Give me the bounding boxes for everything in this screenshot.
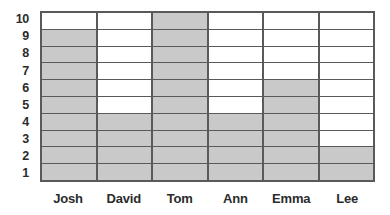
bar-segment-empty xyxy=(320,80,374,97)
bar-segment-filled xyxy=(264,97,318,114)
bar-segment-empty xyxy=(98,47,152,64)
bar-segment-empty xyxy=(209,63,263,80)
bar-segment-filled xyxy=(42,30,96,47)
bar-segment-filled xyxy=(42,80,96,97)
bar-segment-filled xyxy=(209,131,263,148)
bar-segment-filled xyxy=(320,147,374,164)
x-axis-tick: Tom xyxy=(152,186,208,210)
bar-segment-filled xyxy=(264,147,318,164)
bar-segment-filled xyxy=(153,97,207,114)
bar-segment-filled xyxy=(209,114,263,131)
y-axis-tick: 4 xyxy=(0,114,34,131)
y-axis-tick: 1 xyxy=(0,165,34,182)
bar-segment-filled xyxy=(42,164,96,180)
x-axis-tick: Lee xyxy=(319,186,375,210)
x-axis-tick-labels: Josh David Tom Ann Emma Lee xyxy=(40,186,375,210)
y-axis-tick: 8 xyxy=(0,45,34,62)
y-axis-tick: 5 xyxy=(0,96,34,113)
bar-segment-empty xyxy=(264,13,318,30)
bar-segment-empty xyxy=(42,13,96,30)
bar-segment-filled xyxy=(209,164,263,180)
bar-segment-filled xyxy=(264,114,318,131)
bar-segment-filled xyxy=(42,147,96,164)
bar-segment-filled xyxy=(42,63,96,80)
bar-column xyxy=(153,13,209,180)
bar-segment-empty xyxy=(320,47,374,64)
y-axis-tick: 9 xyxy=(0,28,34,45)
x-axis-tick: Emma xyxy=(263,186,319,210)
x-axis-tick: Josh xyxy=(40,186,96,210)
bar-segment-filled xyxy=(42,131,96,148)
bar-segment-empty xyxy=(320,63,374,80)
x-axis-tick: Ann xyxy=(207,186,263,210)
bar-segment-empty xyxy=(320,131,374,148)
bar-column xyxy=(98,13,154,180)
bar-segment-filled xyxy=(264,131,318,148)
bar-segment-empty xyxy=(209,47,263,64)
bar-segment-filled xyxy=(42,114,96,131)
y-axis-tick: 7 xyxy=(0,62,34,79)
x-axis-tick: David xyxy=(96,186,152,210)
bar-segment-filled xyxy=(264,80,318,97)
bar-column xyxy=(42,13,98,180)
bar-segment-empty xyxy=(264,63,318,80)
bar-segment-filled xyxy=(42,47,96,64)
bar-segment-filled xyxy=(320,164,374,180)
bar-segment-empty xyxy=(320,114,374,131)
bar-segment-empty xyxy=(264,47,318,64)
bar-segment-filled xyxy=(153,147,207,164)
bar-segment-filled xyxy=(153,80,207,97)
bar-segment-filled xyxy=(209,147,263,164)
bar-segment-empty xyxy=(209,97,263,114)
bar-segment-empty xyxy=(264,30,318,47)
bar-segment-filled xyxy=(98,131,152,148)
bar-column xyxy=(209,13,265,180)
bar-segment-empty xyxy=(320,30,374,47)
y-axis-tick: 6 xyxy=(0,79,34,96)
bar-column xyxy=(320,13,374,180)
bar-segment-empty xyxy=(320,97,374,114)
bar-segment-filled xyxy=(98,164,152,180)
bar-segment-filled xyxy=(153,63,207,80)
bar-segment-filled xyxy=(153,164,207,180)
bar-segment-filled xyxy=(153,13,207,30)
bar-segment-empty xyxy=(320,13,374,30)
bar-segment-empty xyxy=(98,13,152,30)
bar-segment-empty xyxy=(98,97,152,114)
bar-segment-empty xyxy=(209,30,263,47)
bar-chart: 10 9 8 7 6 5 4 3 2 1 Josh David Tom Ann … xyxy=(0,0,390,215)
bar-segment-empty xyxy=(98,30,152,47)
bar-segment-empty xyxy=(98,80,152,97)
bar-segment-filled xyxy=(98,114,152,131)
bar-segment-filled xyxy=(153,131,207,148)
bar-segment-empty xyxy=(98,63,152,80)
bar-segment-filled xyxy=(42,97,96,114)
plot-area xyxy=(40,11,375,182)
bar-segment-filled xyxy=(153,114,207,131)
bar-segment-empty xyxy=(209,13,263,30)
bar-segment-empty xyxy=(209,80,263,97)
bar-column xyxy=(264,13,320,180)
y-axis-tick: 3 xyxy=(0,131,34,148)
y-axis-tick-labels: 10 9 8 7 6 5 4 3 2 1 xyxy=(0,11,34,182)
y-axis-tick: 10 xyxy=(0,11,34,28)
bar-segment-filled xyxy=(98,147,152,164)
bar-segment-filled xyxy=(153,47,207,64)
bar-segment-filled xyxy=(264,164,318,180)
bar-segment-filled xyxy=(153,30,207,47)
y-axis-tick: 2 xyxy=(0,148,34,165)
